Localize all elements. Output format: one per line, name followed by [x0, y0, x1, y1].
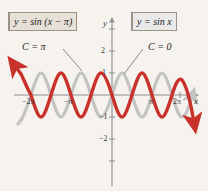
x-axis-label: x: [194, 96, 198, 106]
x-tick-label-negpi: −π: [64, 97, 73, 106]
callout-left-equation: y = sin (x − π): [14, 16, 72, 27]
constant-label-right: C = 0: [148, 41, 171, 52]
callout-box-right: y = sin x: [131, 12, 177, 31]
red-sine-arrow-start: [18, 70, 21, 74]
callout-box-left: y = sin (x − π): [8, 12, 77, 31]
y-axis-label: y: [103, 18, 107, 28]
callout-right-equation: y = sin x: [137, 16, 172, 27]
y-tick-label-neg1: −1: [99, 112, 108, 121]
leader-line-right: [124, 49, 143, 74]
x-tick-label-2pi: 2π: [173, 97, 181, 106]
x-tick-label-pi: π: [149, 97, 153, 106]
y-tick-label-1: 1: [102, 68, 106, 77]
leader-line-left: [63, 49, 82, 71]
gray-sine-tail: [18, 120, 21, 124]
y-tick-label-neg2: −2: [99, 134, 108, 143]
x-tick-label-neg2pi: −2π: [22, 97, 35, 106]
constant-label-left: C = π: [22, 41, 45, 52]
y-tick-label-2: 2: [101, 46, 105, 55]
